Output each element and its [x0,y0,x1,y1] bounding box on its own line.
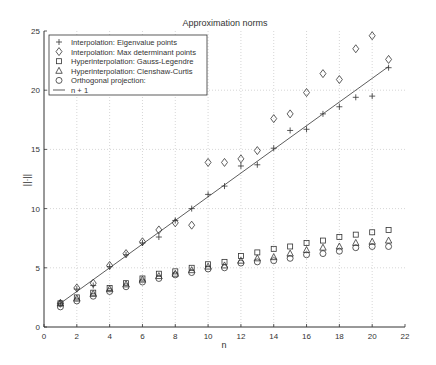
diamond-marker [304,89,310,97]
approximation-norms-chart: Approximation norms n ||·|| 024681012141… [0,0,436,365]
series-triangle [57,237,392,306]
triangle-marker [385,237,391,243]
square-marker [353,232,358,237]
x-tick-label: 10 [204,332,213,341]
x-tick-label: 2 [75,332,80,341]
triangle-marker [320,244,326,250]
x-tick-label: 8 [173,332,178,341]
y-axis-label: ||·|| [22,174,32,186]
y-tick-label: 20 [31,86,40,95]
plus-marker [287,127,293,133]
legend-label: Hyperinterpolation: Gauss-Legendre [71,57,193,66]
y-tick-label: 15 [31,145,40,154]
diamond-marker [369,32,375,40]
legend: Interpolation: Eigenvalue pointsInterpol… [49,35,207,95]
y-tick-label: 5 [36,264,41,273]
diamond-marker [386,55,392,63]
legend-label: Orthogonal projection: [71,76,146,85]
legend-label: Interpolation: Max determinant points [71,48,196,57]
circle-marker [254,259,260,265]
y-tick-label: 10 [31,205,40,214]
diamond-marker [320,70,326,78]
diamond-marker [189,221,195,229]
circle-marker [320,251,326,257]
x-axis-label: n [221,340,226,350]
legend-item: Hyperinterpolation: Gauss-Legendre [57,57,194,66]
plus-marker [156,234,162,240]
legend-label: Interpolation: Eigenvalue points [71,38,177,47]
legend-item: Hyperinterpolation: Clenshaw-Curtis [56,67,193,76]
diamond-marker [254,147,260,155]
legend-label: n + 1 [71,86,88,95]
x-tick-label: 6 [140,332,145,341]
legend-item: Interpolation: Max determinant points [56,48,196,57]
x-tick-label: 12 [236,332,245,341]
plus-marker [238,163,244,169]
diamond-marker [287,110,293,118]
diamond-marker [222,158,228,166]
square-marker [386,227,391,232]
legend-label: Hyperinterpolation: Clenshaw-Curtis [71,67,193,76]
square-marker [288,244,293,249]
x-tick-label: 18 [335,332,344,341]
square-marker [320,238,325,243]
x-tick-label: 20 [368,332,377,341]
diamond-marker [238,155,244,163]
x-tick-label: 0 [42,332,47,341]
series-circle [57,243,391,309]
diamond-marker [205,158,211,166]
plus-marker [336,104,342,110]
y-tick-label: 0 [36,323,41,332]
plot-area: Approximation norms n ||·|| 024681012141… [0,0,436,365]
y-tick-label: 25 [31,27,40,36]
plus-marker [353,94,359,100]
x-tick-label: 16 [302,332,311,341]
x-tick-label: 4 [107,332,112,341]
circle-marker [386,243,392,249]
legend-item: Interpolation: Eigenvalue points [56,38,177,47]
plus-marker [369,93,375,99]
x-tick-label: 14 [269,332,278,341]
diamond-marker [353,45,359,53]
x-tick-label: 22 [401,332,410,341]
chart-title: Approximation norms [182,18,268,28]
